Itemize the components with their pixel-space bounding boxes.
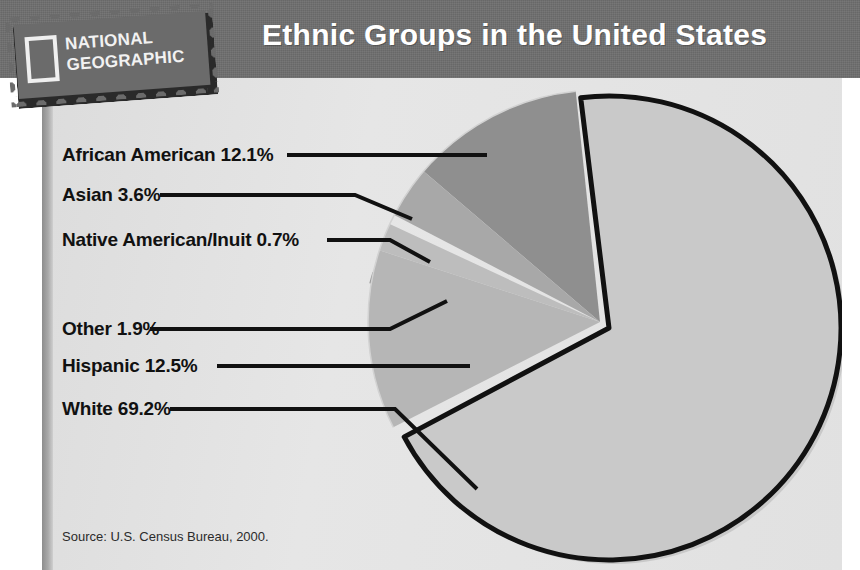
- source-note: Source: U.S. Census Bureau, 2000.: [62, 529, 269, 544]
- label-native-american: Native American/Inuit 0.7%: [62, 229, 299, 251]
- ng-rectangle-icon: [24, 35, 59, 83]
- label-other: Other 1.9%: [62, 318, 159, 340]
- ng-wordmark: NATIONAL GEOGRAPHIC: [64, 25, 185, 76]
- page-title: Ethnic Groups in the United States: [262, 18, 767, 52]
- leader-line-asian: [160, 195, 412, 219]
- infographic-root: African American 12.1% Asian 3.6% Native…: [0, 0, 860, 570]
- label-asian: Asian 3.6%: [62, 184, 160, 206]
- label-african-american: African American 12.1%: [62, 144, 273, 166]
- label-hispanic: Hispanic 12.5%: [62, 355, 198, 377]
- label-white: White 69.2%: [62, 398, 171, 420]
- national-geographic-logo: NATIONAL GEOGRAPHIC: [9, 7, 214, 103]
